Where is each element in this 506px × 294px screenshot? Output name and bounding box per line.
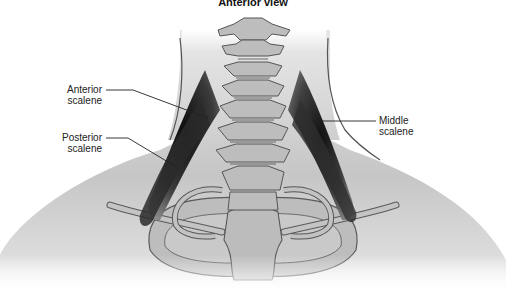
label-anterior-scalene: Anterior scalene [46, 84, 102, 106]
cervical-spine [216, 18, 290, 210]
label-middle-scalene-line2: scalene [379, 126, 439, 137]
label-middle-scalene-line1: Middle [379, 115, 439, 126]
label-posterior-scalene-line2: scalene [44, 143, 102, 154]
label-posterior-scalene: Posterior scalene [44, 132, 102, 154]
label-anterior-scalene-line1: Anterior [46, 84, 102, 95]
bottom-fade [0, 255, 506, 294]
label-middle-scalene: Middle scalene [379, 115, 439, 137]
neck-outline-right [328, 38, 380, 160]
label-posterior-scalene-line1: Posterior [44, 132, 102, 143]
anatomy-figure: Anterior view [0, 0, 506, 294]
label-anterior-scalene-line2: scalene [46, 95, 102, 106]
